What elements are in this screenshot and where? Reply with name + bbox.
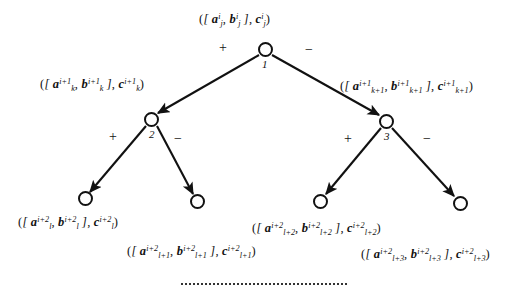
node-label-left-child: ([ ai+1k, bi+1k ], ci+1k) (40, 76, 144, 94)
a-superscript: i+1 (59, 77, 71, 86)
var-c: c (456, 247, 462, 261)
var-c: c (94, 215, 100, 229)
comma-1: , (75, 77, 78, 91)
c-subscript: l+3 (474, 254, 486, 263)
edge-2-to-leaf1 (90, 126, 146, 192)
bracket-open: [ (203, 12, 208, 26)
bracket-open: [ (131, 244, 136, 258)
branch-sign-root-minus: − (305, 43, 313, 57)
c-subscript: k (136, 84, 140, 93)
b-superscript: i+1 (88, 77, 100, 86)
comma-1: , (384, 79, 387, 93)
b-subscript: l+2 (320, 228, 332, 237)
a-superscript: i+2 (146, 244, 158, 253)
node-label-leaf-4: ([ ai+2l+3, bi+2l+3 ], ci+2l+3) (361, 246, 490, 264)
a-subscript: j (221, 19, 223, 28)
c-subscript: k+1 (455, 86, 468, 95)
node-label-root: ([ aij, bij ], cij) (199, 11, 270, 29)
branch-sign-node2-plus: + (109, 130, 117, 144)
c-subscript: l+2 (365, 228, 377, 237)
bracket-open: [ (344, 79, 349, 93)
a-subscript: k (71, 84, 75, 93)
a-subscript: k+1 (371, 86, 384, 95)
tree-node-2[interactable] (144, 112, 159, 127)
tree-leaf-node-1[interactable] (78, 191, 93, 206)
var-b: b (391, 79, 397, 93)
node-id-3: 3 (384, 130, 390, 142)
bracket-open: [ (256, 221, 261, 235)
a-superscript: i+1 (359, 79, 371, 88)
var-b: b (229, 12, 235, 26)
a-subscript: l+3 (392, 254, 404, 263)
comma-1: , (223, 12, 226, 26)
paren-close: ) (140, 77, 144, 91)
c-subscript: l (111, 222, 113, 231)
comma-2: , (87, 215, 90, 229)
paren-close: ) (377, 221, 381, 235)
comma-2: , (431, 79, 434, 93)
b-subscript: l (76, 222, 78, 231)
node-label-leaf-2: ([ ai+2l+1, bi+2l+1 ], ci+2l+1) (127, 243, 256, 261)
comma-2: , (449, 247, 452, 261)
c-superscript: i+1 (444, 79, 456, 88)
paren-close: ) (266, 12, 270, 26)
var-c: c (347, 221, 353, 235)
comma-1: , (51, 215, 54, 229)
a-superscript: i+2 (37, 215, 49, 224)
tree-node-3[interactable] (379, 114, 394, 129)
branch-sign-root-plus: + (219, 41, 227, 55)
c-superscript: i+2 (462, 247, 474, 256)
tree-node-1[interactable] (258, 42, 273, 57)
branch-sign-node3-plus: + (344, 132, 352, 146)
a-superscript: i+2 (380, 247, 392, 256)
comma-2: , (112, 77, 115, 91)
tree-leaf-node-4[interactable] (453, 196, 468, 211)
comma-1: , (295, 221, 298, 235)
b-superscript: i+2 (65, 215, 77, 224)
var-c: c (438, 79, 444, 93)
node-id-2: 2 (149, 128, 155, 140)
a-superscript: i+2 (271, 221, 283, 230)
b-subscript: k (100, 84, 104, 93)
paren-close: ) (469, 79, 473, 93)
b-subscript: l+1 (195, 251, 207, 260)
comma-2: , (249, 12, 252, 26)
c-subscript: j (264, 19, 266, 28)
a-subscript: l+2 (283, 228, 295, 237)
node-label-leaf-3: ([ ai+2l+2, bi+2l+2 ], ci+2l+2) (252, 220, 381, 238)
b-superscript: i+1 (398, 79, 410, 88)
comma-2: , (340, 221, 343, 235)
bracket-open: [ (44, 77, 49, 91)
var-b: b (81, 77, 87, 91)
b-subscript: l+3 (429, 254, 441, 263)
node-id-1: 1 (262, 58, 268, 70)
b-subscript: j (238, 19, 240, 28)
c-superscript: i+2 (100, 215, 112, 224)
var-b: b (58, 215, 64, 229)
paren-close: ) (252, 244, 256, 258)
c-subscript: l+1 (240, 251, 252, 260)
node-label-right-child: ([ ai+1k+1, bi+1k+1 ], ci+1k+1) (340, 78, 473, 96)
node-label-leaf-1: ([ ai+2l, bi+2l ], ci+2l) (18, 214, 118, 232)
tree-leaf-node-3[interactable] (313, 194, 328, 209)
continuation-dotted-line (181, 283, 347, 285)
tree-leaf-node-2[interactable] (190, 194, 205, 209)
b-subscript: k+1 (409, 86, 422, 95)
paren-close: ) (486, 247, 490, 261)
branch-sign-node3-minus: − (423, 132, 431, 146)
a-subscript: l+1 (158, 251, 170, 260)
edge-1-to-2 (158, 55, 259, 113)
b-superscript: i+2 (417, 247, 429, 256)
bracket-open: [ (22, 215, 27, 229)
branch-and-bound-tree-figure: 1 2 3 + − + − + − ([ aij, bij ], cij) ([… (0, 0, 519, 297)
comma-1: , (170, 244, 173, 258)
branch-sign-node2-minus: − (174, 132, 182, 146)
bracket-open: [ (365, 247, 370, 261)
comma-2: , (215, 244, 218, 258)
b-superscript: i+2 (183, 244, 195, 253)
comma-1: , (404, 247, 407, 261)
c-superscript: i+2 (353, 221, 365, 230)
paren-close: ) (114, 215, 118, 229)
c-superscript: i+2 (228, 244, 240, 253)
edge-3-to-leaf3 (326, 128, 381, 194)
